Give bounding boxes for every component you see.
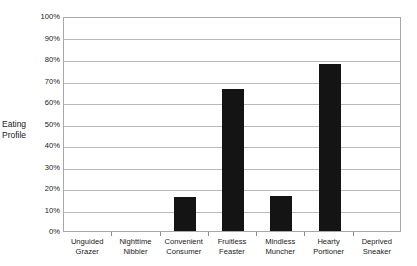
x-axis-category-label-line: Consumer	[160, 247, 208, 257]
bar-slot	[161, 18, 209, 231]
bar-slot	[209, 18, 257, 231]
x-axis-category-label-line: Mindless	[256, 237, 304, 247]
x-axis-tick	[208, 232, 209, 236]
y-axis-tick-label: 0%	[30, 228, 60, 236]
x-axis-category-label-line: Deprived	[353, 237, 401, 247]
x-axis-category-label: ConvenientConsumer	[160, 237, 208, 256]
x-axis-category-label: UnguidedGrazer	[63, 237, 111, 256]
x-axis-category-label-line: Portioner	[304, 247, 352, 257]
x-axis-category-label-line: Unguided	[63, 237, 111, 247]
bar-slot	[64, 18, 112, 231]
bar[interactable]	[222, 89, 244, 231]
x-axis-tick	[111, 232, 112, 236]
bar[interactable]	[270, 196, 292, 231]
y-axis-tick-label: 20%	[30, 185, 60, 193]
x-axis-category-label-line: Convenient	[160, 237, 208, 247]
x-axis-category-label-line: Muncher	[256, 247, 304, 257]
x-axis-tick	[256, 232, 257, 236]
x-axis-category-label-line: Hearty	[304, 237, 352, 247]
x-axis-category-label: HeartyPortioner	[304, 237, 352, 256]
plot-area	[63, 17, 401, 232]
x-axis-category-label-line: Feaster	[208, 247, 256, 257]
bar-slot	[305, 18, 353, 231]
x-axis-category-label: MindlessMuncher	[256, 237, 304, 256]
x-axis-category-label-line: Nighttime	[111, 237, 159, 247]
y-axis-tick-label: 10%	[30, 207, 60, 215]
x-axis-category-label: FruitlessFeaster	[208, 237, 256, 256]
bar-slot	[257, 18, 305, 231]
y-axis-tick-label: 100%	[30, 13, 60, 21]
x-axis-category-label-line: Fruitless	[208, 237, 256, 247]
x-axis-ticks	[63, 232, 401, 236]
bars-layer	[64, 18, 400, 231]
y-axis-tick-label: 40%	[30, 142, 60, 150]
x-axis-tick	[353, 232, 354, 236]
x-axis-category-label-line: Sneaker	[353, 247, 401, 257]
y-axis-tick-label: 30%	[30, 164, 60, 172]
bar-slot	[112, 18, 160, 231]
y-axis-tick-labels: 100%90%80%70%60%50%40%30%20%10%0%	[30, 13, 60, 236]
bar[interactable]	[174, 197, 196, 231]
y-axis-tick-label: 90%	[30, 35, 60, 43]
y-axis-tick-label: 60%	[30, 99, 60, 107]
x-axis-category-label-line: Nibbler	[111, 247, 159, 257]
x-axis-tick	[304, 232, 305, 236]
bar-chart: Eating Profile 100%90%80%70%60%50%40%30%…	[0, 0, 417, 266]
bar-slot	[354, 18, 401, 231]
x-axis-tick	[160, 232, 161, 236]
x-axis-category-label-line: Grazer	[63, 247, 111, 257]
bar[interactable]	[319, 64, 341, 231]
x-axis-category-label: NighttimeNibbler	[111, 237, 159, 256]
y-axis-tick-label: 50%	[30, 121, 60, 129]
y-axis-tick-label: 70%	[30, 78, 60, 86]
y-axis-tick-label: 80%	[30, 56, 60, 64]
x-axis-category-label: DeprivedSneaker	[353, 237, 401, 256]
x-axis-category-labels: UnguidedGrazerNighttimeNibblerConvenient…	[63, 237, 401, 263]
